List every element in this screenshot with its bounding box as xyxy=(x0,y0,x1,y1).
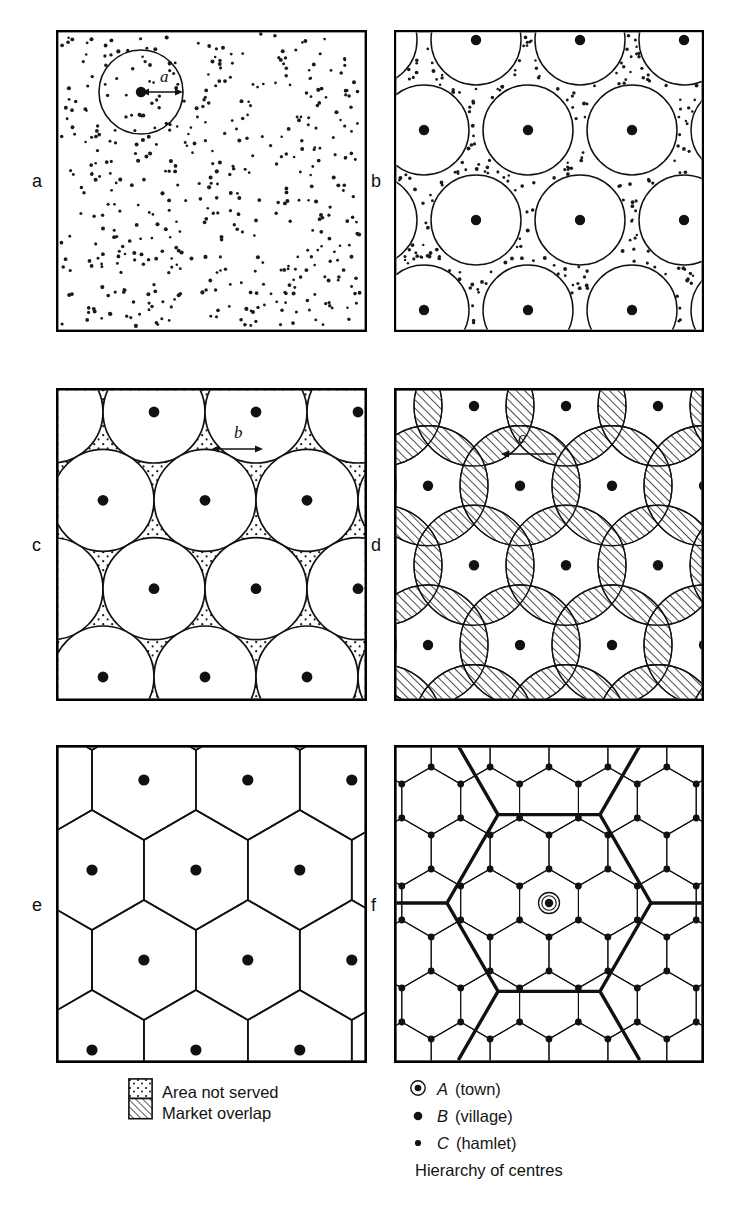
panel-c: b xyxy=(56,388,367,701)
panel-label-f: f xyxy=(371,896,376,914)
panel-a-graphic: a xyxy=(56,30,367,332)
panel-label-c: c xyxy=(32,536,41,554)
legend-item-hamlet: C(hamlet) xyxy=(437,1135,516,1152)
small-dot-icon xyxy=(415,1140,421,1146)
panel-d-graphic: c xyxy=(394,388,704,701)
legend-area-not-served-label: Area not served xyxy=(162,1084,278,1101)
radius-label-c: c xyxy=(518,428,526,447)
legend-code-c: C xyxy=(437,1134,449,1152)
panel-e xyxy=(56,745,367,1063)
panel-label-d: d xyxy=(371,536,381,554)
hatched-swatch xyxy=(129,1099,152,1119)
medium-dot-icon xyxy=(414,1112,423,1121)
legend-market-overlap-label: Market overlap xyxy=(162,1105,271,1122)
legend-item-town: A(town) xyxy=(437,1081,501,1098)
panel-label-a: a xyxy=(32,172,42,190)
legend-item-village: B(village) xyxy=(437,1108,513,1125)
legend-hierarchy-caption: Hierarchy of centres xyxy=(415,1162,563,1179)
central-place-figure: a a b xyxy=(0,0,743,1207)
panel-label-b: b xyxy=(371,172,381,190)
legend-name-hamlet: (hamlet) xyxy=(456,1134,517,1152)
legend-left-swatches xyxy=(128,1078,153,1120)
legend-code-b: B xyxy=(437,1107,448,1125)
panel-a: a xyxy=(56,30,367,332)
panel-e-graphic xyxy=(56,745,367,1063)
panel-f-graphic xyxy=(394,745,704,1063)
legend-name-town: (town) xyxy=(455,1080,501,1098)
panel-b-graphic xyxy=(394,30,704,332)
panel-b xyxy=(394,30,704,332)
panel-f xyxy=(394,745,704,1063)
radius-label-b: b xyxy=(234,423,243,442)
circled-dot-icon xyxy=(411,1081,425,1095)
legend-right-symbols xyxy=(408,1080,428,1166)
dotted-swatch xyxy=(129,1079,152,1099)
panel-d: c xyxy=(394,388,704,701)
panel-label-e: e xyxy=(32,896,42,914)
legend-name-village: (village) xyxy=(455,1107,513,1125)
legend-code-a: A xyxy=(437,1080,448,1098)
panel-c-graphic: b xyxy=(56,388,367,701)
radius-label-a: a xyxy=(160,67,169,86)
